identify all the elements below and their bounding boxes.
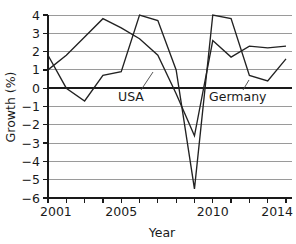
y-tick-labels: −6−5−4−3−2−101234 xyxy=(22,8,40,206)
y-tick-label: 4 xyxy=(32,8,40,23)
x-tick-label: 2005 xyxy=(105,204,137,219)
y-tick-label: 3 xyxy=(32,26,40,41)
x-axis-title: Year xyxy=(148,225,176,240)
x-tick-label: 2001 xyxy=(40,204,72,219)
series-label-germany: Germany xyxy=(209,89,267,104)
series-line-usa xyxy=(48,19,286,136)
x-tick-labels: 2001200520102014 xyxy=(40,204,293,219)
y-tick-label: −1 xyxy=(22,99,40,114)
y-tick-label: −2 xyxy=(22,117,40,132)
series-label-usa: USA xyxy=(118,89,144,104)
gridlines xyxy=(48,15,292,198)
chart-canvas: −6−5−4−3−2−101234 2001200520102014 USA G… xyxy=(0,0,296,244)
usa-leader-line xyxy=(141,72,153,90)
y-tick-label: −3 xyxy=(22,136,40,151)
axes xyxy=(43,15,292,203)
x-tick-label: 2010 xyxy=(197,204,229,219)
y-tick-label: −6 xyxy=(22,191,40,206)
y-tick-label: 0 xyxy=(32,81,40,96)
growth-line-chart: −6−5−4−3−2−101234 2001200520102014 USA G… xyxy=(0,0,296,244)
y-tick-label: −4 xyxy=(22,154,40,169)
y-axis-title: Growth (%) xyxy=(3,72,18,143)
y-tick-label: −5 xyxy=(22,172,40,187)
y-tick-label: 1 xyxy=(32,62,40,77)
x-tick-label: 2014 xyxy=(261,204,293,219)
y-tick-label: 2 xyxy=(32,44,40,59)
